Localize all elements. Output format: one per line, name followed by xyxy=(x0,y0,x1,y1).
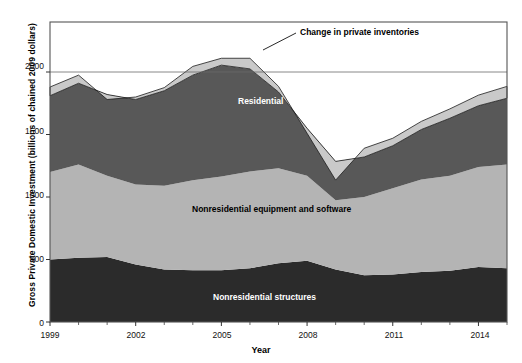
chart-figure: Gross Private Domestic Investment (billi… xyxy=(0,0,522,363)
y-axis-title: Gross Private Domestic Investment (billi… xyxy=(27,15,37,315)
y-tick-label-2000: 2000 xyxy=(10,61,44,71)
x-tick-label-2014: 2014 xyxy=(460,330,500,340)
annotation-label-change-in-private-inventories: Change in private inventories xyxy=(300,27,419,37)
area-series-1 xyxy=(50,165,507,276)
x-axis-title: Year xyxy=(0,345,522,355)
y-tick-label-500: 500 xyxy=(10,254,44,264)
plot-area xyxy=(0,0,522,363)
series-label-residential: Residential xyxy=(238,96,283,106)
x-tick-label-2008: 2008 xyxy=(288,330,328,340)
series-label-nonresidential-equipment-and-software: Nonresidential equipment and software xyxy=(192,204,351,214)
stacked-areas xyxy=(50,22,507,322)
x-tick-label-2005: 2005 xyxy=(202,330,242,340)
x-tick-label-2002: 2002 xyxy=(116,330,156,340)
x-tick-label-2011: 2011 xyxy=(374,330,414,340)
y-tick-label-0: 0 xyxy=(10,318,44,328)
y-tick-label-1000: 1000 xyxy=(10,190,44,200)
y-tick-label-1500: 1500 xyxy=(10,126,44,136)
x-tick-label-1999: 1999 xyxy=(30,330,70,340)
series-label-nonresidential-structures: Nonresidential structures xyxy=(213,292,316,302)
